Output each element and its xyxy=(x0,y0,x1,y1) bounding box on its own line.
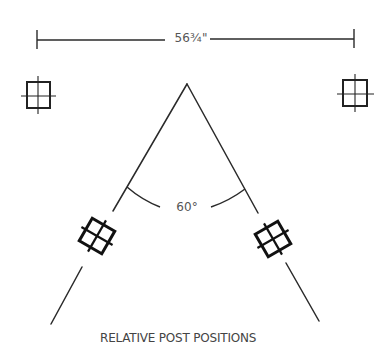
right-angled-post xyxy=(248,214,297,263)
dimension-label: 56¾" xyxy=(168,31,214,45)
diagram-caption: RELATIVE POST POSITIONS xyxy=(100,331,256,345)
angle-label: 60° xyxy=(166,200,208,214)
right-top-post xyxy=(337,74,374,112)
left-top-post xyxy=(21,76,56,114)
post-layout-diagram xyxy=(0,0,387,348)
left-angled-post xyxy=(72,211,121,260)
